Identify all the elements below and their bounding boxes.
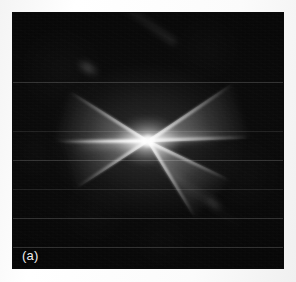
jet-upper-left [85,13,176,45]
central-source [141,135,156,147]
figure-panel: (a) [0,0,296,282]
nebula [13,13,283,268]
astronomical-image-plate: (a) [13,13,283,268]
panel-label: (a) [22,249,39,262]
